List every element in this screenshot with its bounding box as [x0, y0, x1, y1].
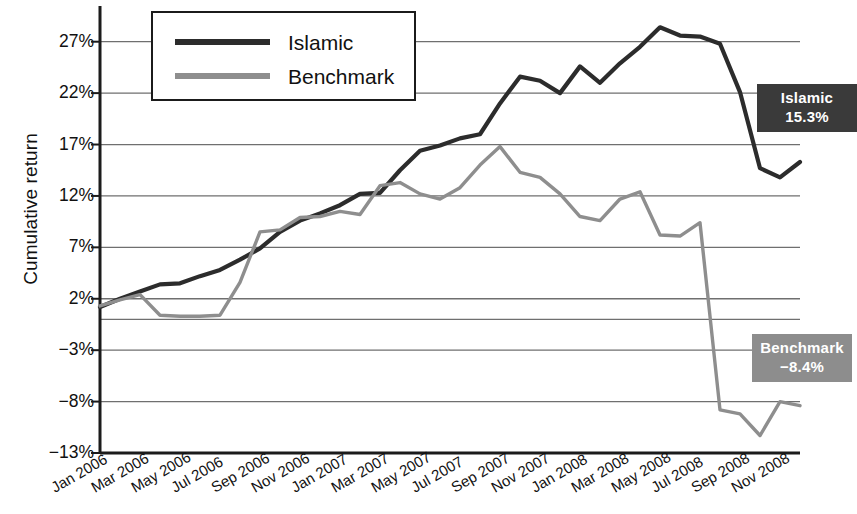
end-label-islamic-value: 15.3%: [757, 108, 857, 127]
legend-item-islamic: Islamic: [175, 27, 353, 57]
end-label-islamic-name: Islamic: [757, 89, 857, 108]
end-label-benchmark: Benchmark −8.4%: [752, 334, 852, 382]
end-label-islamic: Islamic 15.3%: [757, 84, 857, 132]
legend-item-benchmark: Benchmark: [175, 61, 394, 91]
legend-line-swatch-islamic: [175, 39, 270, 45]
end-label-benchmark-name: Benchmark: [752, 339, 852, 358]
legend-line-swatch-benchmark: [175, 73, 270, 79]
chart-legend: Islamic Benchmark: [151, 11, 416, 101]
end-label-benchmark-value: −8.4%: [752, 358, 852, 377]
legend-label-islamic: Islamic: [288, 32, 353, 53]
legend-label-benchmark: Benchmark: [288, 66, 394, 87]
